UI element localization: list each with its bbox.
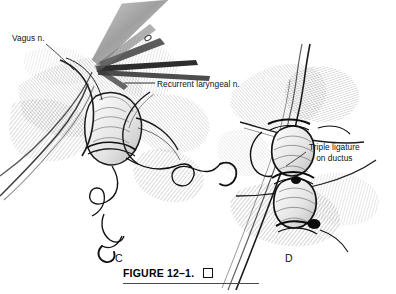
label-triple-ligature-line2: on ductus	[309, 153, 360, 164]
figure-caption-text: FIGURE 12–1.	[123, 267, 194, 279]
surgical-instruments-c	[92, 0, 210, 90]
figure-caption: FIGURE 12–1.	[123, 267, 213, 279]
label-vagus-nerve: Vagus n.	[12, 33, 45, 44]
caption-divider-rule	[123, 283, 259, 284]
label-recurrent-laryngeal-nerve: Recurrent laryngeal n.	[157, 79, 240, 90]
figure-12-1: Vagus n. Recurrent laryngeal n. Triple l…	[0, 0, 396, 294]
caption-end-square-icon	[203, 268, 213, 278]
label-triple-ligature-line1: Triple ligature	[309, 142, 360, 152]
label-triple-ligature-on-ductus: Triple ligature on ductus	[309, 142, 360, 164]
panel-letter-d: D	[285, 252, 293, 264]
panel-letter-c: C	[115, 252, 123, 264]
